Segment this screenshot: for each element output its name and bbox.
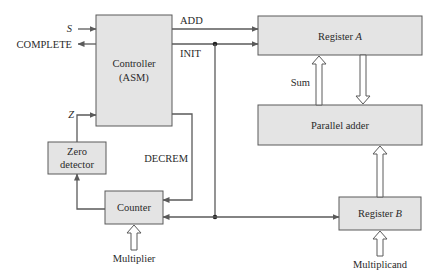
- zero-detector-block: Zero detector: [48, 142, 106, 174]
- z-signal: Z: [68, 109, 96, 142]
- zero-detector-label: Zero: [67, 146, 87, 157]
- complete-signal: COMPLETE: [17, 39, 96, 50]
- controller-label: Controller: [112, 58, 156, 69]
- controller-block: Controller (ASM): [96, 15, 172, 126]
- block-diagram: Controller (ASM) Register A Parallel add…: [0, 0, 442, 280]
- register-a-block: Register A: [258, 16, 422, 55]
- multiplicand-label: Multiplicand: [353, 259, 408, 270]
- multiplier-bus-arrow: [127, 225, 141, 250]
- z-arrow: [77, 115, 96, 142]
- init-label: INIT: [180, 48, 202, 59]
- sum-label: Sum: [291, 77, 310, 88]
- register-b-label: Register B: [358, 208, 403, 219]
- register-b-to-adder-bus-arrow: [373, 146, 387, 197]
- parallel-adder-block: Parallel adder: [258, 105, 422, 145]
- multiplier-input: Multiplier: [113, 225, 156, 264]
- decrem-signal: DECREM: [144, 114, 192, 200]
- multiplicand-input: Multiplicand: [353, 231, 408, 270]
- z-label: Z: [68, 109, 74, 120]
- multiplicand-bus-arrow: [373, 231, 387, 256]
- decrem-label: DECREM: [144, 153, 188, 164]
- controller-sublabel: (ASM): [119, 72, 149, 84]
- parallel-adder-label: Parallel adder: [311, 120, 370, 131]
- counter-label: Counter: [117, 202, 151, 213]
- register-a-to-adder-bus-arrow: [356, 55, 370, 104]
- counter-block: Counter: [105, 191, 163, 224]
- complete-label: COMPLETE: [17, 39, 72, 50]
- sum-bus-arrow: Sum: [291, 56, 326, 105]
- counter-to-zero-detector-arrow: [77, 174, 105, 209]
- add-signal: ADD: [172, 15, 258, 29]
- zero-detector-sublabel: detector: [60, 159, 94, 170]
- s-label: S: [67, 23, 73, 34]
- register-a-label: Register A: [318, 31, 363, 42]
- multiplier-label: Multiplier: [113, 253, 156, 264]
- add-label: ADD: [180, 15, 203, 26]
- register-b-block: Register B: [339, 197, 421, 230]
- s-signal: S: [67, 23, 96, 34]
